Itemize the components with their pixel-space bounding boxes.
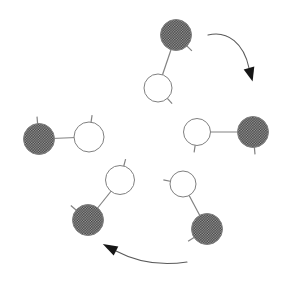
molecule-bottom-right — [163, 171, 222, 245]
shaded-atom — [24, 124, 55, 155]
molecule-bottom-left — [71, 159, 135, 235]
open-atom — [170, 171, 196, 197]
molecule-left — [24, 115, 105, 154]
shaded-atom — [238, 117, 269, 148]
rotation-arrow-bottom-arrowhead-icon — [103, 244, 119, 255]
shaded-atom — [192, 214, 223, 245]
rotation-arrow-top-right-arrowhead-icon — [244, 67, 255, 82]
open-atom — [106, 166, 135, 195]
molecule-top — [144, 20, 192, 104]
open-atom — [184, 119, 211, 146]
figure-rotating-diatomic-molecule — [0, 0, 295, 284]
diagram-svg — [0, 0, 295, 284]
open-atom — [74, 122, 104, 152]
rotation-arrow-top-right — [208, 34, 254, 82]
shaded-atom — [73, 205, 104, 236]
rotation-arrow-bottom — [103, 244, 187, 264]
molecule-right — [184, 117, 269, 155]
shaded-atom — [161, 20, 192, 51]
rotation-arrow-top-right-curve — [208, 34, 249, 68]
rotation-arrow-bottom-curve — [116, 251, 187, 264]
open-atom — [144, 74, 172, 102]
